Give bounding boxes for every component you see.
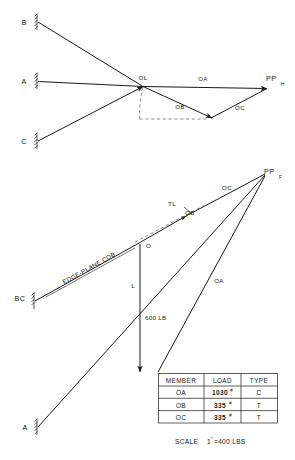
vector-oc-lower [186, 174, 265, 216]
scale-unit-mark: " [211, 437, 213, 442]
support-a-label: A [21, 77, 26, 86]
support-a-lower-label: A [22, 423, 27, 432]
table-cell-member: OC [176, 414, 187, 421]
point-pp-f-label: PP [264, 167, 274, 176]
load-magnitude-label: 600 LB [145, 314, 166, 321]
point-pp-h-label: PP [266, 74, 276, 83]
table-row: OA 1030 # C [176, 388, 262, 396]
support-b [35, 14, 38, 30]
diagram-canvas: B A C OL OA OB OC PP H [0, 0, 295, 460]
table-cell-type: T [257, 414, 261, 421]
vector-oa-lower-label: OA [214, 277, 224, 284]
table-cell-load-unit: # [229, 413, 232, 418]
table-cell-member: OB [176, 402, 186, 409]
point-pp-h-subscript: H [281, 82, 285, 87]
origin-label-o: O [146, 242, 151, 249]
construction-arc [139, 87, 143, 119]
table-header-load: LOAD [213, 377, 232, 384]
point-pp-f-subscript: F [279, 175, 282, 180]
table-header-type: TYPE [250, 377, 268, 384]
table-header-member: MEMBER [166, 377, 196, 384]
edge-plane-label: EDGE-PLANE COB [61, 250, 116, 285]
support-a-lower [35, 419, 38, 435]
vector-ob-lower-label: OB [185, 209, 195, 216]
scale-equals: =400 LBS [214, 438, 246, 445]
support-bc-label: BC [15, 294, 26, 303]
true-length-label: TL [168, 200, 176, 207]
table-row: OB 335 # T [176, 401, 261, 409]
scale-note: SCALE 1 " =400 LBS [175, 437, 246, 445]
member-line-b [38, 22, 143, 87]
table-cell-type: T [257, 402, 261, 409]
vector-load-label: L [131, 282, 135, 289]
member-line-c [38, 87, 143, 142]
member-line-a [38, 82, 143, 87]
table-cell-member: OA [176, 389, 186, 396]
vector-oc-lower-label: OC [222, 184, 232, 191]
vector-ob-lower [139, 216, 186, 243]
support-b-label: B [21, 18, 26, 27]
table-cell-load-unit: # [229, 401, 232, 406]
table-cell-type: C [256, 389, 261, 396]
vector-ob-label: OB [175, 103, 185, 110]
support-bc [32, 293, 35, 309]
support-a [35, 73, 38, 89]
drawing-sheet: B A C OL OA OB OC PP H [0, 0, 295, 460]
vector-oc-label: OC [235, 104, 245, 111]
vector-oa-label: OA [198, 75, 208, 82]
edge-plane-underline [46, 248, 135, 297]
member-load-table: MEMBER LOAD TYPE OA 1030 # C OB 335 # T … [159, 374, 278, 424]
table-cell-load: 1030 [212, 389, 228, 396]
table-row: OC 335 # T [176, 413, 261, 421]
junction-label-ol: OL [139, 74, 148, 81]
support-c-label: C [21, 137, 27, 146]
vector-oa [143, 87, 267, 89]
scale-word: SCALE [175, 438, 198, 445]
table-cell-load: 335 [214, 414, 226, 421]
table-cell-load-unit: # [230, 388, 233, 393]
support-c [35, 133, 38, 149]
table-cell-load: 335 [214, 402, 226, 409]
